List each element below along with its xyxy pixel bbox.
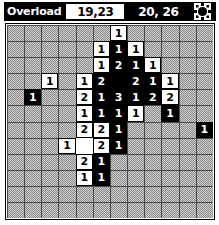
minefield-cell-hidden[interactable] <box>179 25 196 41</box>
minefield-cell-hidden[interactable] <box>144 170 161 186</box>
minefield-cell-hidden[interactable] <box>196 25 213 41</box>
minefield-cell-hidden[interactable] <box>24 41 41 57</box>
minefield-cell-hidden[interactable] <box>7 154 24 170</box>
minefield-cell-revealed[interactable]: 1 <box>24 89 41 105</box>
settings-button[interactable] <box>189 2 216 21</box>
minefield-cell-revealed[interactable]: 1 <box>110 122 127 138</box>
minefield-cell-hidden[interactable] <box>161 122 178 138</box>
minefield-cell-hidden[interactable] <box>7 73 24 89</box>
minefield-cell-hidden[interactable] <box>144 154 161 170</box>
minefield-cell-hidden[interactable] <box>24 202 41 218</box>
minefield-cell-hidden[interactable] <box>41 170 58 186</box>
minefield-cell-hidden[interactable] <box>179 89 196 105</box>
minefield-cell-hidden[interactable] <box>144 105 161 121</box>
minefield-cell-revealed[interactable]: 1 <box>93 89 110 105</box>
minefield-cell-hidden[interactable] <box>110 202 127 218</box>
minefield-cell-revealed[interactable]: 2 <box>76 89 93 105</box>
minefield-cell-hidden[interactable] <box>58 105 75 121</box>
minefield-cell-revealed[interactable]: 1 <box>93 57 110 73</box>
minefield-cell-hidden[interactable] <box>127 122 144 138</box>
minefield-cell-hidden[interactable] <box>41 25 58 41</box>
minefield-cell-hidden[interactable] <box>41 105 58 121</box>
minefield-cell-hidden[interactable] <box>196 105 213 121</box>
minefield-cell-hidden[interactable] <box>196 89 213 105</box>
minefield-cell-hidden[interactable] <box>144 138 161 154</box>
minefield-cell-revealed[interactable] <box>110 73 127 89</box>
minefield-cell-hidden[interactable] <box>41 41 58 57</box>
minefield-cell-revealed[interactable]: 1 <box>127 57 144 73</box>
minefield-cell-hidden[interactable] <box>58 202 75 218</box>
minefield-cell-revealed[interactable]: 1 <box>161 105 178 121</box>
minefield-cell-hidden[interactable] <box>179 138 196 154</box>
minefield-cell-hidden[interactable] <box>161 25 178 41</box>
minefield-cell-revealed[interactable]: 3 <box>110 89 127 105</box>
minefield-cell-hidden[interactable] <box>24 73 41 89</box>
minefield-cell-revealed[interactable]: 1 <box>127 41 144 57</box>
minefield-cell-revealed[interactable]: 1 <box>110 25 127 41</box>
minefield-cell-hidden[interactable] <box>196 186 213 202</box>
minefield-cell-hidden[interactable] <box>93 202 110 218</box>
minefield-cell-hidden[interactable] <box>179 41 196 57</box>
minefield-cell-revealed[interactable]: 1 <box>161 73 178 89</box>
minefield-cell-revealed[interactable]: 1 <box>93 41 110 57</box>
minefield-cell-hidden[interactable] <box>58 41 75 57</box>
minefield-cell-revealed[interactable]: 2 <box>76 154 93 170</box>
minefield-cell-revealed[interactable] <box>76 138 93 154</box>
minefield-cell-revealed[interactable]: 1 <box>58 138 75 154</box>
minefield-cell-hidden[interactable] <box>127 186 144 202</box>
minefield-cell-revealed[interactable]: 1 <box>110 41 127 57</box>
minefield-cell-hidden[interactable] <box>127 202 144 218</box>
minefield-cell-revealed[interactable]: 1 <box>76 170 93 186</box>
minefield-cell-hidden[interactable] <box>161 57 178 73</box>
minefield-cell-revealed[interactable]: 2 <box>93 73 110 89</box>
minefield-cell-revealed[interactable]: 1 <box>127 89 144 105</box>
minefield-cell-hidden[interactable] <box>76 202 93 218</box>
minefield-cell-hidden[interactable] <box>144 186 161 202</box>
minefield-cell-revealed[interactable]: 2 <box>110 57 127 73</box>
minefield-cell-hidden[interactable] <box>24 170 41 186</box>
minefield-cell-hidden[interactable] <box>76 57 93 73</box>
minefield-cell-revealed[interactable]: 2 <box>93 138 110 154</box>
minefield-cell-hidden[interactable] <box>24 57 41 73</box>
minefield-cell-hidden[interactable] <box>161 138 178 154</box>
minefield-cell-hidden[interactable] <box>7 89 24 105</box>
minefield-cell-hidden[interactable] <box>179 170 196 186</box>
minefield-cell-hidden[interactable] <box>179 202 196 218</box>
minefield-cell-revealed[interactable]: 1 <box>144 57 161 73</box>
minefield-cell-hidden[interactable] <box>110 170 127 186</box>
minefield-cell-hidden[interactable] <box>127 138 144 154</box>
minefield-cell-hidden[interactable] <box>7 186 24 202</box>
minefield-cell-hidden[interactable] <box>179 57 196 73</box>
minefield-cell-hidden[interactable] <box>24 25 41 41</box>
minefield-cell-hidden[interactable] <box>58 186 75 202</box>
minefield-cell-revealed[interactable]: 1 <box>127 105 144 121</box>
minefield-cell-revealed[interactable]: 1 <box>93 105 110 121</box>
minefield-cell-hidden[interactable] <box>41 186 58 202</box>
minefield-cell-revealed[interactable]: 1 <box>93 170 110 186</box>
minefield-cell-hidden[interactable] <box>196 41 213 57</box>
minefield-cell-hidden[interactable] <box>7 202 24 218</box>
minefield-cell-hidden[interactable] <box>161 154 178 170</box>
minefield-cell-hidden[interactable] <box>179 73 196 89</box>
minefield-cell-hidden[interactable] <box>58 25 75 41</box>
minefield-cell-hidden[interactable] <box>110 186 127 202</box>
minefield-cell-hidden[interactable] <box>144 25 161 41</box>
minefield-cell-hidden[interactable] <box>196 138 213 154</box>
minefield-cell-hidden[interactable] <box>127 25 144 41</box>
minefield-cell-hidden[interactable] <box>161 41 178 57</box>
minefield-cell-hidden[interactable] <box>41 154 58 170</box>
minefield-cell-hidden[interactable] <box>93 186 110 202</box>
minefield-cell-hidden[interactable] <box>41 57 58 73</box>
minefield-cell-hidden[interactable] <box>24 105 41 121</box>
minefield-cell-hidden[interactable] <box>58 73 75 89</box>
minefield-cell-hidden[interactable] <box>93 25 110 41</box>
minefield-cell-hidden[interactable] <box>110 154 127 170</box>
minefield-cell-hidden[interactable] <box>41 202 58 218</box>
minefield-cell-hidden[interactable] <box>7 170 24 186</box>
minefield-cell-hidden[interactable] <box>41 89 58 105</box>
minefield-cell-revealed[interactable]: 1 <box>144 73 161 89</box>
minefield-cell-hidden[interactable] <box>7 25 24 41</box>
minefield-cell-hidden[interactable] <box>196 170 213 186</box>
minefield-grid[interactable]: 1111121111221112131221111122111212111 <box>7 25 213 218</box>
minefield-cell-hidden[interactable] <box>76 186 93 202</box>
